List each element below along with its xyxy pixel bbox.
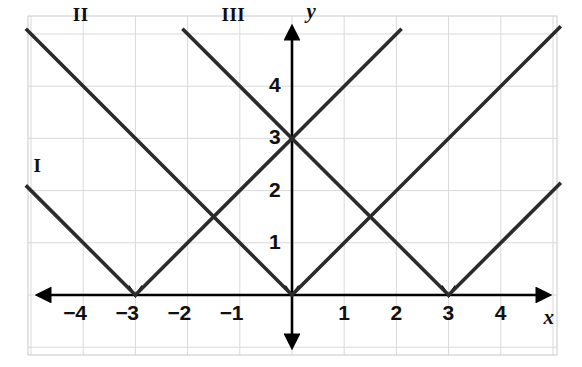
x-axis-label: x [544, 305, 555, 330]
y-tick-label-1: 1 [269, 230, 280, 254]
x-tick-label-−3: −3 [115, 301, 138, 325]
x-tick-label-−1: −1 [220, 301, 243, 325]
curve-lines [26, 26, 561, 295]
curve-label-I: I [34, 155, 42, 177]
x-tick-label-2: 2 [390, 301, 401, 325]
y-tick-label-3: 3 [269, 125, 280, 149]
curve-II [26, 26, 561, 295]
x-tick-label-1: 1 [338, 301, 349, 325]
axes [38, 27, 549, 347]
absolute-value-graph-figure: −4−3−2−112341234IIIIIIyx [0, 0, 582, 367]
x-tick-label-3: 3 [443, 301, 454, 325]
y-axis-label: y [307, 0, 316, 24]
y-tick-label-2: 2 [269, 178, 280, 202]
x-tick-label-4: 4 [495, 301, 506, 325]
curve-I [26, 29, 402, 295]
curve-III [182, 29, 560, 295]
curve-label-II: II [73, 4, 89, 26]
curve-label-III: III [222, 4, 246, 26]
y-tick-label-4: 4 [269, 73, 280, 97]
x-tick-label-−4: −4 [63, 301, 86, 325]
x-tick-label-−2: −2 [168, 301, 191, 325]
